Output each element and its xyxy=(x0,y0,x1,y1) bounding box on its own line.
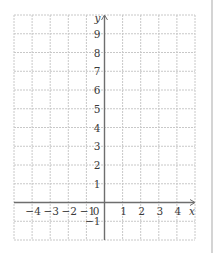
y-tick-label: 4 xyxy=(94,122,101,134)
y-tick-label: −1 xyxy=(85,215,100,227)
page-edge-divider xyxy=(211,0,213,253)
x-tick-label: 3 xyxy=(156,205,163,217)
y-tick-label: 1 xyxy=(94,178,101,190)
y-tick-label: 7 xyxy=(94,65,101,77)
y-tick-label: 3 xyxy=(94,140,101,152)
x-tick-label: −4 xyxy=(25,205,41,217)
y-tick-label: 9 xyxy=(94,28,101,40)
x-tick-label: 1 xyxy=(120,205,127,217)
x-axis-label: x xyxy=(189,205,195,217)
x-tick-label: 4 xyxy=(175,205,182,217)
y-tick-label: 5 xyxy=(94,103,101,115)
coordinate-grid: −4−3−2−11234123456789−10xy xyxy=(0,0,215,253)
y-tick-label: 8 xyxy=(94,47,101,59)
x-tick-label: −2 xyxy=(62,205,77,217)
y-tick-label: 6 xyxy=(94,84,101,96)
origin-label: 0 xyxy=(93,205,100,217)
x-tick-label: −3 xyxy=(43,205,58,217)
x-tick-label: 2 xyxy=(138,205,145,217)
y-tick-label: 2 xyxy=(94,159,101,171)
y-axis-label: y xyxy=(94,12,102,24)
